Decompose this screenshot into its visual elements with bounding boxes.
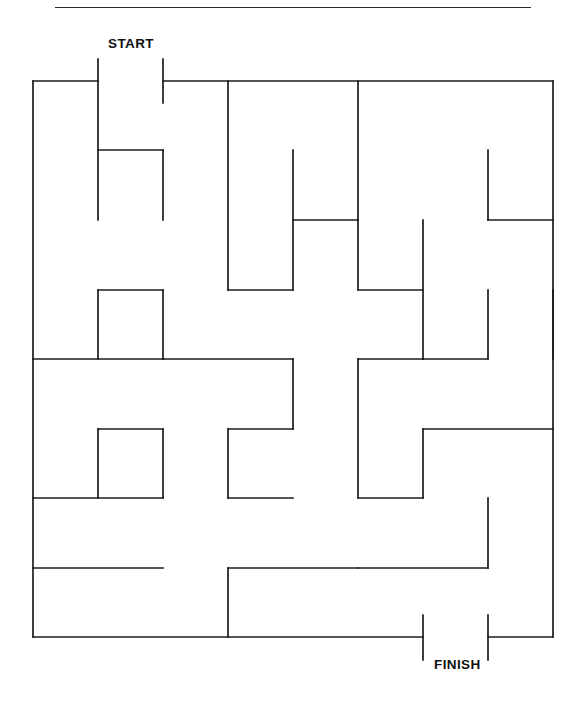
finish-label: FINISH [434, 657, 481, 672]
maze-grid [0, 0, 586, 709]
maze-page: Maze Puzzle Page START FINISH [0, 0, 586, 709]
start-label: START [108, 36, 154, 51]
